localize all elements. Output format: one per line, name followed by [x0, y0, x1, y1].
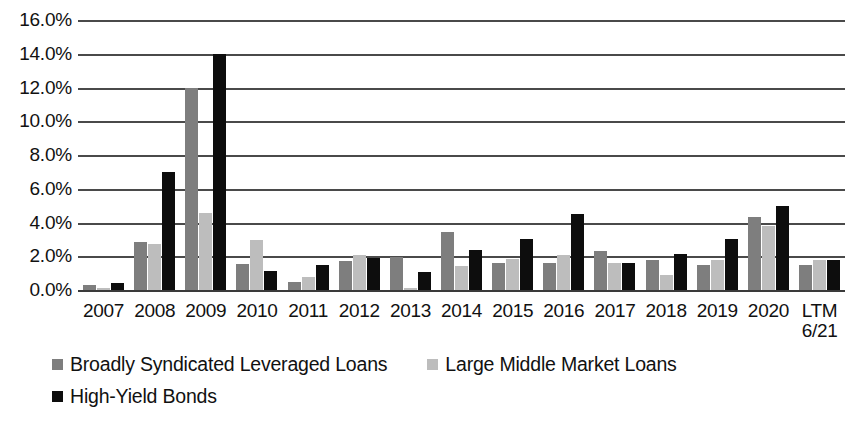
bar-group	[385, 20, 436, 290]
bar-group	[180, 20, 231, 290]
bar	[711, 260, 724, 290]
bar	[111, 283, 124, 290]
bar	[339, 261, 352, 290]
bar	[185, 88, 198, 291]
legend-swatch-icon	[52, 391, 63, 402]
legend-row-primary: Broadly Syndicated Leveraged Loans Large…	[52, 353, 842, 376]
bar	[827, 260, 840, 290]
bar-group	[283, 20, 334, 290]
bar-group	[794, 20, 845, 290]
bar	[674, 254, 687, 290]
y-axis-tick-label: 14.0%	[19, 43, 72, 65]
legend-swatch-icon	[427, 359, 438, 370]
bar	[762, 226, 775, 290]
x-axis-tick-label: 2010	[231, 293, 282, 351]
x-axis: 2007200820092010201120122013201420152016…	[78, 293, 845, 351]
bar	[367, 258, 380, 290]
bar-group	[743, 20, 794, 290]
bar	[469, 250, 482, 290]
y-axis-tick-label: 8.0%	[29, 144, 72, 166]
x-axis-tick-label: 2020	[743, 293, 794, 351]
bar-group	[436, 20, 487, 290]
bar	[404, 288, 417, 290]
x-axis-tick-label: 2007	[78, 293, 129, 351]
x-axis-tick-label: 2011	[283, 293, 334, 351]
bar	[418, 272, 431, 290]
x-axis-tick-label: 2008	[129, 293, 180, 351]
bar	[213, 54, 226, 290]
x-axis-tick-label: 2015	[487, 293, 538, 351]
bar	[441, 232, 454, 290]
legend-label: Broadly Syndicated Leveraged Loans	[70, 353, 387, 376]
y-axis-tick-label: 12.0%	[19, 77, 72, 99]
legend-label: High-Yield Bonds	[70, 385, 217, 408]
y-axis: 16.0%14.0%12.0%10.0%8.0%6.0%4.0%2.0%0.0%	[0, 0, 78, 310]
bar	[264, 271, 277, 290]
x-axis-tick-label: 2014	[436, 293, 487, 351]
bar	[134, 242, 147, 290]
bar	[799, 265, 812, 290]
bar	[520, 239, 533, 290]
bar-group	[538, 20, 589, 290]
legend-swatch-icon	[52, 359, 63, 370]
bar	[725, 239, 738, 290]
bar	[543, 263, 556, 290]
bar	[148, 244, 161, 290]
legend-item-large-middle-market-loans[interactable]: Large Middle Market Loans	[427, 353, 676, 376]
bar-group	[487, 20, 538, 290]
bar	[83, 285, 96, 290]
x-axis-tick-label: 2018	[641, 293, 692, 351]
bar	[390, 257, 403, 290]
x-axis-tick-label: 2013	[385, 293, 436, 351]
x-axis-tick-label: 2017	[589, 293, 640, 351]
bar	[660, 275, 673, 290]
x-axis-tick-label: 2009	[180, 293, 231, 351]
bar	[288, 282, 301, 290]
bar-group	[129, 20, 180, 290]
bar	[622, 263, 635, 290]
legend-label: Large Middle Market Loans	[445, 353, 676, 376]
y-axis-tick-label: 0.0%	[29, 279, 72, 301]
bar	[236, 264, 249, 290]
y-axis-tick-label: 6.0%	[29, 178, 72, 200]
bar	[199, 213, 212, 290]
bar	[557, 255, 570, 290]
bar	[594, 251, 607, 290]
bar-group	[641, 20, 692, 290]
bar	[302, 277, 315, 291]
bar	[697, 265, 710, 290]
x-axis-tick-label: 2016	[538, 293, 589, 351]
legend-item-high-yield-bonds[interactable]: High-Yield Bonds	[52, 385, 217, 408]
bar-group	[334, 20, 385, 290]
bar	[353, 255, 366, 290]
bar	[162, 172, 175, 290]
bar	[646, 260, 659, 290]
bar-group	[231, 20, 282, 290]
bar	[571, 214, 584, 290]
bar	[250, 240, 263, 290]
bar-group	[589, 20, 640, 290]
bar-group	[692, 20, 743, 290]
x-axis-tick-label: 2012	[334, 293, 385, 351]
legend-row-secondary: High-Yield Bonds	[52, 385, 842, 408]
bar	[748, 217, 761, 290]
y-axis-tick-label: 16.0%	[19, 9, 72, 31]
bar-chart: 16.0%14.0%12.0%10.0%8.0%6.0%4.0%2.0%0.0%…	[0, 0, 855, 433]
bar	[776, 206, 789, 290]
bar	[813, 260, 826, 290]
x-axis-tick-label: 2019	[692, 293, 743, 351]
bar	[506, 259, 519, 290]
bar	[97, 288, 110, 290]
bar	[492, 263, 505, 290]
chart-legend: Broadly Syndicated Leveraged Loans Large…	[52, 353, 842, 417]
y-axis-tick-label: 4.0%	[29, 212, 72, 234]
y-axis-tick-label: 2.0%	[29, 245, 72, 267]
bars-layer	[78, 20, 845, 290]
bar-group	[78, 20, 129, 290]
y-axis-tick-label: 10.0%	[19, 110, 72, 132]
bar	[608, 263, 621, 290]
gridline	[78, 290, 845, 292]
legend-item-broadly-syndicated-leveraged-loans[interactable]: Broadly Syndicated Leveraged Loans	[52, 353, 387, 376]
x-axis-tick-label: LTM6/21	[794, 293, 845, 351]
bar	[316, 265, 329, 290]
